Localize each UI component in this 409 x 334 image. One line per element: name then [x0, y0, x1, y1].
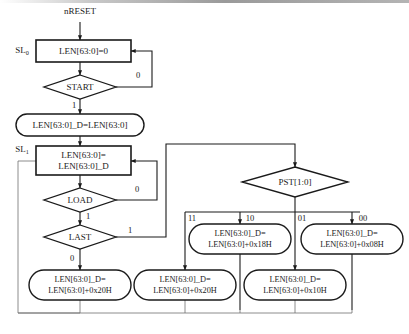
node-op-pst11-line2: LEN[63:0]+0x20H: [153, 286, 217, 295]
node-reset-state-label: LEN[63:0]=0: [59, 46, 109, 56]
node-load-decision-label: LOAD: [68, 195, 93, 205]
edge-label-pst-01: 01: [298, 213, 307, 223]
state-machine-flowchart: nRESET SL0 LEN[63:0]=0 START 0 1 LEN[63:…: [0, 0, 409, 334]
edge-label-pst-10: 10: [246, 213, 255, 223]
node-op-last0-line1: LEN[63:0]_D=: [54, 275, 106, 284]
node-assign-d-from-len-label: LEN[63:0]_D=LEN[63:0]: [32, 120, 127, 130]
node-op-pst00-line1: LEN[63:0]_D=: [326, 229, 378, 238]
sl0-base: SL: [15, 45, 26, 55]
state-label-sl1: SL1: [15, 144, 29, 155]
node-op-pst10-line2: LEN[63:0]+0x18H: [208, 240, 272, 249]
node-op-pst00-line2: LEN[63:0]+0x08H: [320, 240, 384, 249]
node-run-state-line2: LEN[63:0]_D: [58, 161, 109, 171]
node-op-pst01-line2: LEN[63:0]+0x10H: [263, 286, 327, 295]
svg-text:SL1: SL1: [15, 144, 29, 155]
sl1-sub: 1: [26, 148, 29, 155]
node-start-decision-label: START: [66, 82, 94, 92]
edge-label-pst-11: 11: [188, 213, 196, 223]
node-op-pst10-line1: LEN[63:0]_D=: [214, 229, 266, 238]
state-label-sl0: SL0: [15, 45, 29, 56]
sl1-base: SL: [15, 144, 26, 154]
node-op-pst01-line1: LEN[63:0]_D=: [269, 275, 321, 284]
edge-last-true-to-pst: [116, 144, 295, 237]
node-run-state-line1: LEN[63:0]=: [61, 150, 106, 160]
node-op-last0-line2: LEN[63:0]+0x20H: [48, 286, 112, 295]
svg-text:SL0: SL0: [15, 45, 29, 56]
nreset-label: nRESET: [64, 6, 97, 16]
node-op-pst11-line1: LEN[63:0]_D=: [159, 275, 211, 284]
edge-label-load-true: 1: [86, 211, 90, 221]
edge-label-last-false: 0: [70, 253, 74, 263]
sl0-sub: 0: [26, 49, 29, 56]
node-pst-decision-label: PST[1:0]: [278, 177, 311, 187]
flowchart-page: nRESET SL0 LEN[63:0]=0 START 0 1 LEN[63:…: [0, 0, 409, 334]
edge-label-load-false: 0: [135, 184, 139, 194]
edge-label-last-true: 1: [128, 225, 132, 235]
node-last-decision-label: LAST: [69, 232, 92, 242]
edge-label-start-true: 1: [72, 100, 76, 110]
edge-label-pst-00: 00: [359, 213, 368, 223]
edge-label-start-false: 0: [136, 70, 140, 80]
